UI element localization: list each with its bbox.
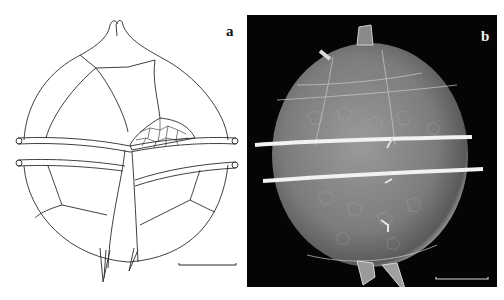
panel-label-a: a: [226, 24, 234, 39]
sem-cell-image: [247, 15, 497, 287]
cell-drawing: [0, 0, 247, 300]
panel-label-b: b: [481, 29, 489, 44]
panel-b-sem-micrograph: b: [247, 15, 497, 287]
panel-a-line-drawing: a: [0, 0, 247, 300]
